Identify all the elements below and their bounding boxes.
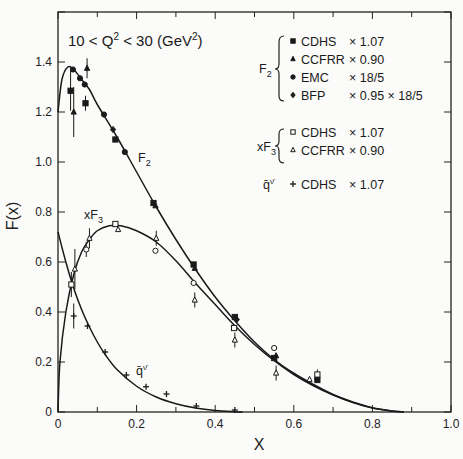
legend-label: BFP: [301, 89, 325, 103]
open-square-marker: [291, 130, 295, 134]
legend-factor: × 0.90: [349, 53, 384, 67]
y-tick-label: 0.4: [35, 305, 52, 319]
legend-label: CDHS: [301, 178, 336, 192]
legend: F2 xF3 q̄ν̄ CDHS× 1.07CCFRR× 0.90EMC× 18…: [257, 35, 423, 192]
open-circle-marker: [84, 247, 89, 252]
filled-circle-marker: [82, 82, 87, 87]
x-tick-label: 0.8: [364, 417, 381, 431]
x-axis-label: X: [254, 436, 265, 453]
filled-triangle-marker: [71, 109, 76, 114]
legend-brace-xf3: [275, 129, 284, 163]
tick-labels: 00.20.40.60.81.000.20.40.60.81.01.21.4: [35, 55, 459, 431]
open-square-marker: [315, 372, 320, 377]
filled-square-marker: [83, 101, 88, 106]
open-circle-marker: [191, 280, 196, 285]
legend-group-qbar: q̄ν̄: [263, 177, 276, 192]
legend-factor: × 0.95 × 18/5: [349, 89, 423, 103]
curve-label-f2: F2: [138, 151, 151, 168]
filled-square-marker: [68, 88, 73, 93]
legend-group-xf3: xF3: [257, 140, 276, 157]
filled-diamond-marker: [291, 92, 295, 97]
legend-factor: × 1.07: [349, 35, 384, 49]
legend-label: EMC: [301, 71, 329, 85]
filled-square-marker: [291, 39, 295, 43]
y-tick-label: 1.2: [35, 105, 52, 119]
x-tick-label: 0.4: [207, 417, 224, 431]
filled-triangle-marker: [84, 65, 89, 70]
fit-curves: [58, 66, 404, 412]
fit-curve-xf3: [58, 225, 404, 412]
open-triangle-marker: [192, 297, 197, 302]
y-tick-label: 0.8: [35, 205, 52, 219]
filled-triangle-marker: [274, 353, 279, 358]
filled-circle-marker: [101, 112, 106, 117]
filled-circle-marker: [77, 76, 82, 81]
fit-curve-q: [58, 232, 243, 412]
x-tick-label: 0.6: [285, 417, 302, 431]
legend-label: CDHS: [301, 35, 336, 49]
structure-function-chart: 00.20.40.60.81.000.20.40.60.81.01.21.4 1…: [0, 0, 463, 459]
legend-group-f2: F2: [259, 62, 272, 79]
x-tick-label: 1.0: [443, 417, 460, 431]
legend-brace-f2: [275, 36, 284, 101]
open-triangle-marker: [291, 147, 295, 151]
legend-factor: × 0.90: [349, 144, 384, 158]
legend-factor: × 1.07: [349, 126, 384, 140]
y-axis-label: F(x): [4, 202, 21, 230]
open-triangle-marker: [116, 226, 121, 231]
legend-label: CCFRR: [301, 53, 345, 67]
legend-factor: × 18/5: [349, 71, 384, 85]
filled-square-marker: [113, 137, 118, 142]
open-square-marker: [113, 221, 118, 226]
open-square-marker: [69, 282, 74, 287]
legend-label: CCFRR: [301, 144, 345, 158]
open-triangle-marker: [274, 370, 279, 375]
filled-circle-marker: [70, 67, 75, 72]
axis-ticks: [58, 12, 451, 412]
plot-frame: [58, 12, 451, 412]
curve-label-xf3: xF3: [84, 208, 103, 225]
x-tick-label: 0.2: [128, 417, 145, 431]
open-circle-marker: [272, 345, 277, 350]
y-tick-label: 1.0: [35, 155, 52, 169]
open-triangle-marker: [307, 376, 312, 381]
y-tick-label: 0.6: [35, 255, 52, 269]
open-triangle-marker: [154, 235, 159, 240]
legend-factor: × 1.07: [349, 178, 384, 192]
chart-title: 10 < Q2 < 30 (GeV2): [68, 31, 203, 49]
y-tick-label: 0.2: [35, 355, 52, 369]
open-circle-marker: [153, 248, 158, 253]
open-square-marker: [231, 325, 236, 330]
filled-circle-marker: [291, 75, 295, 79]
y-tick-label: 0: [45, 405, 52, 419]
curve-label-qbar: q̄ν̄: [136, 363, 149, 378]
y-tick-label: 1.4: [35, 55, 52, 69]
data-points: [68, 58, 320, 413]
x-tick-label: 0: [55, 417, 62, 431]
filled-triangle-marker: [291, 56, 295, 60]
open-triangle-marker: [232, 337, 237, 342]
filled-circle-marker: [122, 149, 127, 154]
legend-label: CDHS: [301, 126, 336, 140]
